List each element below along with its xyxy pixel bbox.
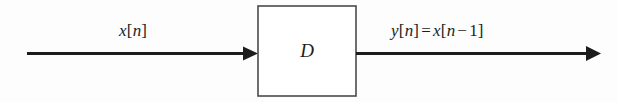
output-lhs-variable: y [391,21,399,40]
output-arrowhead [586,46,601,61]
block-diagram-figure: x[n] D y[n]=x[n−1] [0,0,618,102]
input-arrow [27,47,258,61]
output-rhs-variable: x [433,21,441,40]
equals-sign: = [419,21,433,40]
output-signal-label: y[n]=x[n−1] [391,21,484,41]
output-rhs-close-bracket: ] [478,21,484,40]
output-arrow [356,46,601,61]
output-rhs-offset: 1 [469,21,478,40]
input-close-bracket: ] [141,21,147,40]
input-signal-label: x[n] [119,21,147,41]
delay-block-label: D [258,6,356,96]
input-arrowhead [243,47,258,61]
minus-sign: − [455,21,469,40]
input-variable: x [119,21,127,40]
